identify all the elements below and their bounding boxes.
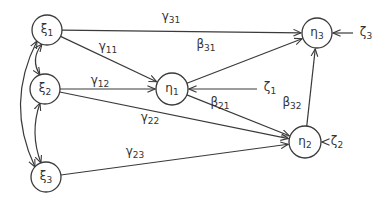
path-β32-arrow (307, 49, 315, 126)
node-eta1: η1 (156, 73, 188, 105)
path-coefficient-label: γ22 (141, 110, 160, 126)
correlation-xi2-xi3-arrow (35, 103, 41, 163)
node-xi2: ξ2 (30, 74, 60, 104)
correlation-xi1-xi3-arrow (20, 41, 37, 167)
node-xi3: ξ3 (31, 162, 61, 192)
disturbance-label: ζ2 (331, 134, 343, 150)
node-eta2: η2 (289, 126, 321, 158)
path-diagram: ξ1ξ2ξ3η1η2η3 γ31γ11γ12γ22γ23β31β21β32ζ1ζ… (0, 0, 391, 202)
path-coefficient-label: β32 (282, 95, 301, 111)
path-γ11-arrow (61, 36, 157, 81)
path-coefficient-label: γ31 (162, 9, 181, 25)
diagram-canvas: ξ1ξ2ξ3η1η2η3 γ31γ11γ12γ22γ23β31β21β32ζ1ζ… (0, 0, 391, 202)
path-coefficient-label: γ12 (91, 73, 110, 89)
node-eta3: η3 (302, 18, 332, 48)
path-coefficient-label: β31 (196, 37, 215, 53)
correlation-xi1-xi2-arrow (35, 44, 42, 75)
node-xi1: ξ1 (32, 15, 62, 45)
path-γ31-arrow (62, 30, 301, 33)
path-coefficient-label: γ11 (99, 39, 118, 55)
path-coefficient-label: β21 (210, 95, 229, 111)
path-γ23-arrow (61, 144, 288, 175)
disturbance-label: ζ3 (360, 25, 372, 41)
disturbance-label: ζ1 (264, 80, 276, 96)
path-coefficient-label: γ23 (126, 144, 145, 160)
path-β21-arrow (187, 95, 289, 136)
